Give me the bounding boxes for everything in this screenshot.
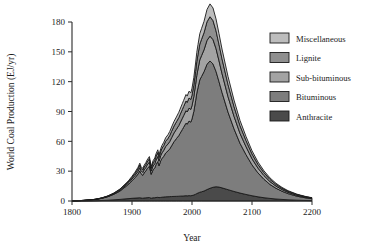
x-axis-title: Year <box>183 233 201 243</box>
y-tick-label: 60 <box>56 137 66 147</box>
legend-label-sub-bituminous: Sub-bituminous <box>296 73 352 83</box>
y-tick-label: 30 <box>56 166 66 176</box>
y-axis-title: World Coal Production (EJ/yr) <box>6 54 17 171</box>
legend: MiscellaneousLigniteSub-bituminousBitumi… <box>270 33 352 122</box>
coal-production-chart: 18001900200021002200 0306090120150180 Ye… <box>0 0 380 249</box>
legend-swatch-anthracite <box>270 111 289 121</box>
legend-swatch-miscellaneous <box>270 33 289 43</box>
y-tick-label: 150 <box>52 47 66 57</box>
legend-label-lignite: Lignite <box>296 53 321 63</box>
y-tick-label: 120 <box>52 77 66 87</box>
legend-label-bituminous: Bituminous <box>296 92 337 102</box>
legend-label-miscellaneous: Miscellaneous <box>296 34 346 44</box>
x-tick-label: 1900 <box>123 207 142 217</box>
x-tick-label: 1800 <box>63 207 82 217</box>
x-tick-label: 2100 <box>243 207 262 217</box>
x-tick-label: 2200 <box>303 207 322 217</box>
legend-swatch-sub-bituminous <box>270 72 289 82</box>
x-tick-labels: 18001900200021002200 <box>63 207 322 217</box>
legend-swatch-lignite <box>270 53 289 63</box>
legend-label-anthracite: Anthracite <box>296 112 332 122</box>
y-tick-label: 90 <box>56 107 66 117</box>
x-tick-label: 2000 <box>183 207 202 217</box>
y-tick-labels: 0306090120150180 <box>52 17 66 206</box>
y-tick-label: 0 <box>61 196 66 206</box>
legend-swatch-bituminous <box>270 92 289 102</box>
y-tick-label: 180 <box>52 17 66 27</box>
